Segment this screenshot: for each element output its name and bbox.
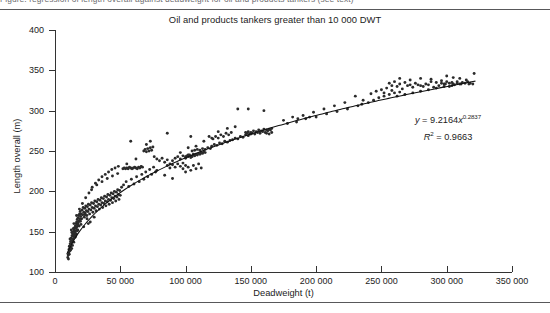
data-point (158, 159, 161, 162)
data-point (184, 171, 187, 174)
data-point (370, 92, 373, 95)
data-point (398, 91, 401, 94)
data-point (182, 154, 185, 157)
data-point (354, 95, 357, 98)
data-point (70, 247, 73, 250)
equation-exponent: 0.2837 (463, 113, 481, 120)
data-point (84, 213, 87, 216)
data-point (234, 125, 237, 128)
data-point (163, 174, 166, 177)
data-point (152, 166, 155, 169)
data-point (202, 140, 205, 143)
data-point (72, 227, 75, 230)
data-point (375, 90, 378, 93)
data-point (432, 86, 435, 89)
data-point (193, 149, 196, 152)
regression-equation: y = 9.2164x0.2837 (388, 110, 508, 127)
data-point (217, 137, 220, 140)
data-point (67, 258, 70, 261)
data-point (401, 87, 404, 90)
data-point (200, 166, 203, 169)
data-point (440, 79, 443, 82)
data-point (95, 183, 98, 186)
data-point (204, 151, 207, 154)
data-point (144, 171, 147, 174)
data-point (81, 202, 84, 205)
data-point (119, 194, 122, 197)
data-point (110, 168, 113, 171)
data-point (417, 83, 420, 86)
scatter-plot-canvas (0, 0, 550, 313)
data-point (226, 127, 229, 130)
data-point (72, 222, 75, 225)
data-point (75, 214, 78, 217)
data-point (174, 157, 177, 160)
data-point (74, 232, 77, 235)
data-point (114, 166, 117, 169)
data-point (393, 80, 396, 83)
data-point (192, 164, 195, 167)
data-point (208, 135, 211, 138)
data-point (195, 167, 198, 170)
data-point (108, 203, 111, 206)
data-point (262, 109, 265, 112)
regression-annotation: y = 9.2164x0.2837 R2 = 0.9663 (388, 110, 508, 144)
data-point (265, 132, 268, 135)
data-point (104, 173, 107, 176)
data-point (93, 216, 96, 219)
data-point (130, 178, 133, 181)
data-point (166, 132, 169, 135)
data-point (362, 99, 365, 102)
data-point (182, 167, 185, 170)
data-point (388, 93, 391, 96)
r-squared-value: R2 = 0.9663 (388, 127, 508, 144)
data-point (122, 183, 125, 186)
data-point (437, 84, 440, 87)
data-point (163, 161, 166, 164)
data-point (166, 158, 169, 161)
data-point (135, 158, 138, 161)
data-point (383, 95, 386, 98)
data-point (270, 131, 273, 134)
data-point (182, 162, 185, 165)
data-point (424, 83, 427, 86)
data-point (171, 159, 174, 162)
data-point (312, 111, 315, 114)
data-point (217, 130, 220, 133)
data-point (125, 180, 128, 183)
data-point (445, 80, 448, 83)
data-point (184, 164, 187, 167)
data-point (150, 149, 153, 152)
data-point (87, 222, 90, 225)
data-point (141, 166, 144, 169)
data-point (176, 162, 179, 165)
data-point (465, 79, 468, 82)
data-point (111, 201, 114, 204)
data-point (149, 140, 152, 143)
data-point (129, 140, 132, 143)
data-point (76, 224, 79, 227)
data-point (409, 83, 412, 86)
data-point (201, 147, 204, 150)
data-point (68, 253, 71, 256)
data-point (69, 237, 72, 240)
data-point (86, 217, 89, 220)
data-point (452, 76, 455, 79)
data-point (236, 108, 239, 111)
data-point (403, 81, 406, 84)
data-point (168, 166, 171, 169)
data-point (171, 177, 174, 180)
data-point (282, 119, 285, 122)
data-point (148, 168, 151, 171)
data-point (302, 114, 305, 117)
data-point (385, 87, 388, 90)
data-point (155, 158, 158, 161)
data-point (135, 175, 138, 178)
data-point (125, 162, 128, 165)
data-point (187, 146, 190, 149)
data-point (435, 81, 438, 84)
data-point (398, 77, 401, 80)
data-point (473, 72, 476, 75)
data-point (291, 116, 294, 119)
data-point (225, 132, 228, 135)
